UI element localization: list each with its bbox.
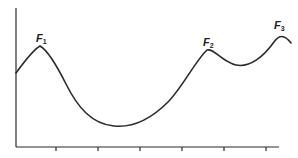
x-axis-ticks [56, 147, 266, 151]
spectral-envelope-curve [16, 37, 291, 127]
peak-label-f3: F3 [274, 19, 285, 32]
peak-label-f2: F2 [203, 36, 214, 49]
curve-plot: F1 F2 F3 [0, 0, 298, 158]
peak-label-f1: F1 [36, 32, 47, 45]
formant-curve-figure: F1 F2 F3 [0, 0, 298, 158]
